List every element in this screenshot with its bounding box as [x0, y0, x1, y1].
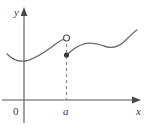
filled-dot-function-value: [64, 52, 69, 57]
origin-label: 0: [13, 105, 19, 117]
curve-left-branch: [7, 38, 66, 61]
x-axis-label: x: [135, 105, 141, 117]
y-axis-group: [21, 7, 28, 123]
y-axis-label: y: [13, 6, 19, 18]
graph-canvas: y x 0 a: [0, 0, 148, 127]
y-axis-arrowhead: [21, 7, 28, 16]
open-circle-limit-value: [64, 35, 70, 41]
x-tick-label-a: a: [63, 105, 69, 117]
curve-right-branch: [67, 30, 137, 55]
x-axis-group: [2, 97, 141, 104]
math-figure-container: y x 0 a: [0, 0, 148, 127]
x-axis-arrowhead: [132, 97, 141, 104]
